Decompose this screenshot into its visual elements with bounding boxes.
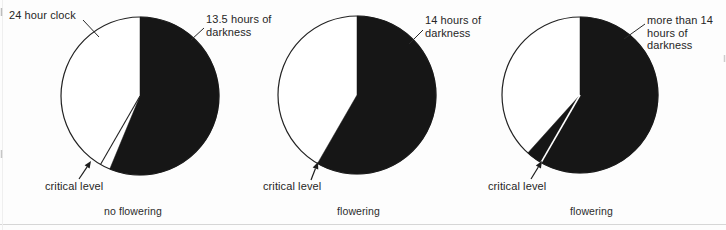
critical-level-label-pie1: critical level <box>45 180 103 193</box>
critical-arrow-head <box>85 161 91 168</box>
darkness-label-line: darkness <box>206 26 272 39</box>
critical-arrow-shaft <box>311 169 315 180</box>
photoperiodism-figure: 24 hour clock 13.5 hours of darkness cri… <box>0 0 726 230</box>
critical-arrow-head <box>313 162 319 170</box>
critical-level-label-pie3: critical level <box>488 180 546 193</box>
pies-canvas <box>0 0 726 230</box>
darkness-label-line: hours of <box>647 27 713 40</box>
critical-arrow-head <box>536 161 542 169</box>
critical-arrow-shaft <box>79 167 87 179</box>
darkness-label-line: 14 hours of <box>425 14 481 27</box>
darkness-label-pie3: more than 14 hours of darkness <box>647 14 713 52</box>
pie-1 <box>61 17 219 179</box>
pie-3 <box>502 17 658 179</box>
caption-pie2: flowering <box>337 205 380 218</box>
darkness-label-line: 13.5 hours of <box>206 13 272 26</box>
clock-label: 24 hour clock <box>9 9 76 22</box>
critical-arrow-shaft <box>531 167 538 179</box>
darkness-label-pie1: 13.5 hours of darkness <box>206 13 272 38</box>
label-leader-line <box>624 24 645 39</box>
caption-pie3: flowering <box>570 205 613 218</box>
pie-2 <box>278 16 436 180</box>
darkness-label-line: darkness <box>647 39 713 52</box>
label-leader-line <box>191 28 204 40</box>
critical-level-label-pie2: critical level <box>263 180 321 193</box>
darkness-label-line: more than 14 <box>647 14 713 27</box>
darkness-label-pie2: 14 hours of darkness <box>425 14 481 39</box>
darkness-label-line: darkness <box>425 27 481 40</box>
caption-pie1: no flowering <box>104 205 162 218</box>
